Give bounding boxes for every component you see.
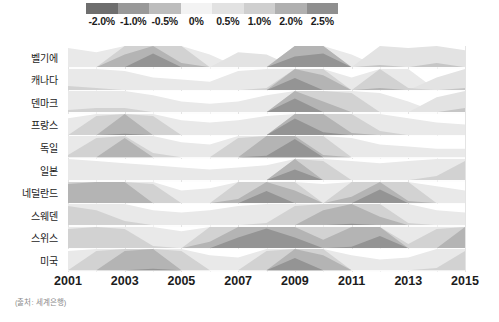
y-axis-label-4: 독일 bbox=[40, 140, 58, 155]
horizon-chart-page: -2.0%-1.0%-0.5%0%0.5%1.0%2.0%2.5% 벨기에캐나다… bbox=[0, 0, 499, 322]
horizon-rows bbox=[68, 46, 465, 272]
x-axis-label-2003: 2003 bbox=[111, 274, 139, 288]
horizon-row bbox=[68, 46, 465, 67]
legend-colorbar bbox=[86, 3, 338, 14]
legend-swatch-7 bbox=[307, 3, 339, 14]
legend-tick-4: 0.5% bbox=[216, 15, 239, 27]
legend-tick-labels: -2.0%-1.0%-0.5%0%0.5%1.0%2.0%2.5% bbox=[72, 15, 352, 31]
horizon-row bbox=[68, 182, 465, 203]
legend-tick-3: 0% bbox=[189, 15, 204, 27]
legend-tick-5: 1.0% bbox=[248, 15, 271, 27]
horizon-row bbox=[68, 204, 465, 225]
horizon-row bbox=[68, 91, 465, 112]
horizon-row bbox=[68, 227, 465, 248]
legend-swatch-4 bbox=[212, 3, 244, 14]
legend: -2.0%-1.0%-0.5%0%0.5%1.0%2.0%2.5% bbox=[86, 3, 338, 31]
y-axis-label-7: 스웨덴 bbox=[31, 207, 58, 222]
plot-area bbox=[68, 46, 465, 272]
x-axis-label-2007: 2007 bbox=[224, 274, 252, 288]
horizon-row bbox=[68, 249, 465, 270]
legend-tick-6: 2.0% bbox=[279, 15, 302, 27]
horizon-row bbox=[68, 136, 465, 157]
legend-swatch-6 bbox=[275, 3, 307, 14]
y-axis-label-2: 덴마크 bbox=[31, 94, 58, 109]
y-axis-label-6: 네덜란드 bbox=[22, 185, 58, 200]
gridline-2015 bbox=[465, 46, 466, 272]
y-axis-label-3: 프랑스 bbox=[31, 117, 58, 132]
y-axis-label-8: 스위스 bbox=[31, 230, 58, 245]
horizon-row bbox=[68, 114, 465, 135]
legend-swatch-3 bbox=[181, 3, 213, 14]
y-axis-labels: 벨기에캐나다덴마크프랑스독일일본네덜란드스웨덴스위스미국 bbox=[0, 46, 64, 272]
x-axis-label-2001: 2001 bbox=[54, 274, 82, 288]
legend-swatch-2 bbox=[149, 3, 181, 14]
x-axis-label-2009: 2009 bbox=[281, 274, 309, 288]
legend-swatch-1 bbox=[118, 3, 150, 14]
legend-tick-1: -1.0% bbox=[120, 15, 146, 27]
y-axis-label-0: 벨기에 bbox=[31, 49, 58, 64]
legend-swatch-0 bbox=[86, 3, 118, 14]
horizon-row bbox=[68, 69, 465, 90]
horizon-row bbox=[68, 159, 465, 180]
y-axis-label-9: 미국 bbox=[40, 253, 58, 268]
source-note: (출처: 세계은행) bbox=[15, 296, 66, 307]
x-axis-labels: 20012003200520072009201120132015 bbox=[68, 274, 465, 292]
y-axis-label-1: 캐나다 bbox=[31, 72, 58, 87]
x-axis-label-2013: 2013 bbox=[394, 274, 422, 288]
legend-tick-2: -0.5% bbox=[152, 15, 178, 27]
x-axis-label-2005: 2005 bbox=[168, 274, 196, 288]
x-axis-label-2011: 2011 bbox=[338, 274, 365, 288]
legend-tick-0: -2.0% bbox=[89, 15, 115, 27]
legend-swatch-5 bbox=[244, 3, 276, 14]
x-axis-label-2015: 2015 bbox=[451, 274, 479, 288]
y-axis-label-5: 일본 bbox=[40, 162, 58, 177]
legend-tick-7: 2.5% bbox=[311, 15, 334, 27]
